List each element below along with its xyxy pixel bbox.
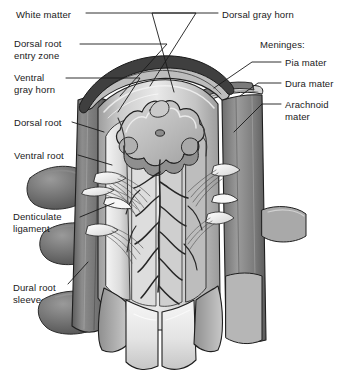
label-dorsal-gray-horn: Dorsal gray horn — [222, 9, 294, 21]
label-ventral-root: Ventral root — [14, 150, 64, 162]
dural-root-sleeve-right — [262, 207, 306, 242]
label-dural-root-sleeve: Dural root sleeve — [13, 282, 56, 306]
label-pia-mater: Pia mater — [285, 57, 327, 69]
label-meninges-heading: Meninges: — [260, 39, 305, 51]
label-dorsal-root-entry-zone: Dorsal root entry zone — [14, 38, 62, 62]
label-dura-mater: Dura mater — [285, 78, 334, 90]
label-white-matter: White matter — [16, 9, 71, 21]
lateral-block-right — [226, 273, 262, 344]
label-ventral-gray-horn: Ventral gray horn — [14, 72, 55, 96]
label-arachnoid-mater: Arachnoid mater — [285, 99, 329, 123]
label-dorsal-root: Dorsal root — [14, 117, 62, 129]
label-denticulate-ligament: Denticulate ligament — [13, 211, 62, 235]
spinal-cord-meninges-figure: White matter Dorsal root entry zone Vent… — [0, 0, 345, 377]
